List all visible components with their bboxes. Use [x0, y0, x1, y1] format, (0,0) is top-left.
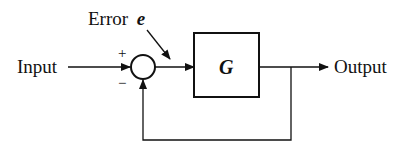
input-label: Input [17, 56, 58, 77]
feedback-loop-diagram: Input + − Error e G Output [0, 0, 413, 149]
feedback-path [143, 67, 291, 140]
error-label: Error e [88, 8, 146, 29]
error-symbol: e [137, 8, 146, 29]
output-label: Output [334, 56, 388, 77]
summing-junction [131, 55, 155, 79]
plant-block-label: G [219, 56, 234, 78]
error-pointer-arrow [147, 30, 170, 59]
plus-sign: + [118, 45, 126, 61]
error-label-text: Error [88, 8, 129, 29]
minus-sign: − [118, 75, 126, 91]
